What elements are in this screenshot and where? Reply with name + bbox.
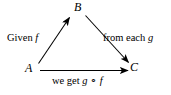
edge-label-b-to-c-symbol: g: [148, 32, 153, 43]
vertex-label-c: C: [130, 61, 138, 73]
vertex-label-b: B: [74, 1, 81, 13]
edge-label-a-to-c-symbol-f: f: [100, 75, 103, 86]
edge-a-to-b-arrow: [39, 18, 70, 64]
edge-label-a-to-b-symbol: f: [35, 32, 38, 43]
edge-label-a-to-c: we get g ∘ f: [52, 75, 103, 86]
edge-label-b-to-c: from each g: [103, 32, 153, 43]
edge-label-b-to-c-text: from each: [103, 32, 145, 43]
vertex-label-a: A: [25, 62, 32, 74]
commutative-diagram-figure: B A C Given f from each g we get g ∘ f: [0, 0, 171, 95]
edge-label-a-to-b: Given f: [7, 32, 38, 43]
edge-label-a-to-b-text: Given: [7, 32, 33, 43]
edge-label-a-to-c-text: we get: [52, 75, 80, 86]
